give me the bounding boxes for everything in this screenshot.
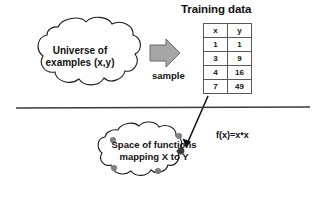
universe-cloud-label: Universe of examples (x,y): [34, 45, 126, 69]
cell-y: 49: [228, 80, 252, 94]
diagram-canvas: Universe of examples (x,y) sample Traini…: [0, 0, 329, 208]
cell-x: 4: [204, 66, 228, 80]
training-data-table: x y 1 1 3 9 4 16 7 49: [203, 23, 252, 94]
universe-cloud-line1: Universe of: [34, 45, 126, 57]
table-row: 7 49: [204, 80, 252, 94]
training-data-title: Training data: [181, 3, 251, 15]
sample-label: sample: [152, 70, 185, 81]
table-row: 4 16: [204, 66, 252, 80]
block-arrow-right-icon: [150, 39, 180, 67]
table-header-row: x y: [204, 24, 252, 38]
cell-y: 9: [228, 52, 252, 66]
cell-y: 16: [228, 66, 252, 80]
universe-cloud-line2: examples (x,y): [34, 57, 126, 69]
column-header-x: x: [204, 24, 228, 38]
cell-x: 7: [204, 80, 228, 94]
table-row: 3 9: [204, 52, 252, 66]
function-dot: [155, 168, 161, 174]
column-header-y: y: [228, 24, 252, 38]
table-row: 1 1: [204, 38, 252, 52]
cell-x: 3: [204, 52, 228, 66]
table-to-cloud-arrow-line: [187, 96, 208, 144]
cell-y: 1: [228, 38, 252, 52]
function-expression-label: f(x)=x*x: [216, 130, 249, 140]
horizontal-divider-line: [16, 107, 310, 108]
table-body: x y 1 1 3 9 4 16 7 49: [204, 24, 252, 94]
space-of-functions-label: Space of functions mapping X to Y: [108, 139, 200, 162]
function-dot: [111, 165, 117, 171]
diagram-artwork: [0, 0, 329, 208]
cell-x: 1: [204, 38, 228, 52]
